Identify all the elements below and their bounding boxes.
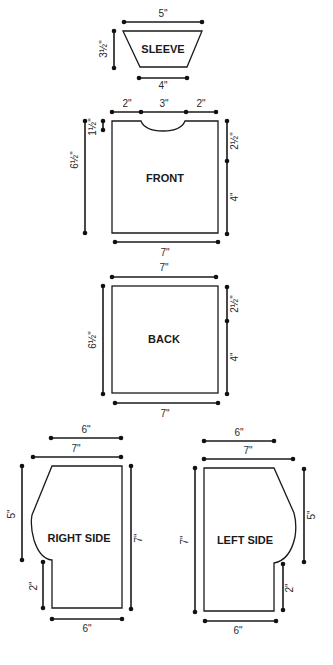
sleeve-piece: SLEEVE 5" 3½" 4" <box>98 8 204 91</box>
svg-text:6": 6" <box>81 424 91 435</box>
svg-text:7": 7" <box>179 535 190 545</box>
left-side-label: LEFT SIDE <box>217 534 273 546</box>
right-side-top-long-dimension: 7" <box>31 443 124 459</box>
svg-text:7": 7" <box>159 262 169 273</box>
svg-text:2½": 2½" <box>229 132 240 150</box>
svg-text:2": 2" <box>122 98 132 109</box>
left-side-top-long-dimension: 7" <box>202 445 296 461</box>
svg-text:6": 6" <box>234 427 244 438</box>
svg-text:6½": 6½" <box>87 331 98 349</box>
svg-text:1½": 1½" <box>87 118 98 136</box>
svg-text:5": 5" <box>158 8 168 19</box>
svg-text:6": 6" <box>233 625 243 636</box>
sleeve-label: SLEEVE <box>141 43 184 55</box>
back-label: BACK <box>148 333 180 345</box>
sleeve-height-dimension: 3½" <box>98 29 116 71</box>
right-side-bottom-dimension: 6" <box>50 617 125 634</box>
front-height-dimension: 6½" <box>69 119 87 236</box>
front-piece: FRONT 2" 3" 2" 1½" 6½" 2½" 4" <box>69 98 240 258</box>
svg-text:4": 4" <box>229 352 240 362</box>
svg-text:2": 2" <box>196 98 206 109</box>
back-piece: BACK 7" 6½" 2½" 4" 7" <box>87 262 240 419</box>
svg-text:4": 4" <box>158 80 168 91</box>
sleeve-bottom-dimension: 4" <box>137 76 190 91</box>
sleeve-top-dimension: 5" <box>122 8 205 24</box>
right-side-top-short-dimension: 6" <box>49 424 124 440</box>
left-side-piece: LEFT SIDE 6" 7" 7" 5" 2" <box>179 427 317 636</box>
front-right-dimension: 2½" 4" <box>225 119 240 237</box>
right-side-label: RIGHT SIDE <box>48 532 111 544</box>
svg-text:7": 7" <box>133 533 144 543</box>
front-label: FRONT <box>146 172 184 184</box>
svg-text:5": 5" <box>6 509 17 519</box>
left-side-height-dimension: 7" <box>179 466 197 615</box>
svg-text:2": 2" <box>284 583 295 593</box>
left-side-top-short-dimension: 6" <box>202 427 277 443</box>
svg-text:6½": 6½" <box>69 151 80 169</box>
right-side-step-dimension: 2" <box>28 560 45 611</box>
svg-text:7": 7" <box>71 443 81 454</box>
left-side-step-dimension: 2" <box>281 562 295 613</box>
back-right-dimension: 2½" 4" <box>225 285 240 397</box>
back-bottom-dimension: 7" <box>113 401 221 419</box>
pattern-diagram: SLEEVE 5" 3½" 4" FRONT 2" 3" <box>0 0 333 665</box>
svg-text:7": 7" <box>243 445 253 456</box>
svg-text:7": 7" <box>160 247 170 258</box>
svg-text:3½": 3½" <box>98 40 109 58</box>
svg-text:4": 4" <box>229 192 240 202</box>
right-side-piece: RIGHT SIDE 6" 7" 5" 2" 7" <box>6 424 144 634</box>
back-top-dimension: 7" <box>110 262 219 279</box>
svg-text:5": 5" <box>306 510 317 520</box>
front-top-dimension: 2" 3" 2" <box>110 98 219 114</box>
svg-text:6": 6" <box>82 623 92 634</box>
svg-text:7": 7" <box>160 408 170 419</box>
front-bottom-dimension: 7" <box>113 240 221 258</box>
svg-text:2": 2" <box>28 581 39 591</box>
right-side-height-dimension: 7" <box>129 464 144 612</box>
front-neck-depth-dimension: 1½" <box>87 118 105 136</box>
svg-text:2½": 2½" <box>229 295 240 313</box>
svg-text:3": 3" <box>159 98 169 109</box>
left-side-bottom-dimension: 6" <box>203 619 279 636</box>
right-side-curve-dimension: 5" <box>6 464 24 563</box>
back-height-dimension: 6½" <box>87 284 105 397</box>
left-side-curve-dimension: 5" <box>302 467 317 565</box>
